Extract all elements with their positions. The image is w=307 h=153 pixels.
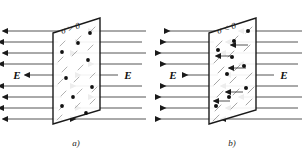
charge-dot	[214, 104, 218, 108]
panel-b-charged-plane	[209, 18, 256, 124]
charge-dot	[242, 64, 246, 68]
charge-dot	[225, 72, 229, 76]
charge-dot	[60, 50, 64, 54]
panel-a: σ > 0 E E a)	[4, 18, 146, 148]
charge-dot	[90, 85, 94, 89]
charge-dot	[216, 48, 220, 52]
panel-a-charged-plane	[53, 18, 100, 124]
panel-a-caption: a)	[72, 138, 80, 148]
charge-dot	[88, 31, 92, 35]
charge-dot	[246, 29, 250, 33]
panel-a-field-label-left: E	[12, 69, 20, 81]
charge-dot	[86, 58, 90, 62]
charge-dot	[60, 104, 64, 108]
panel-b-caption: b)	[228, 138, 236, 148]
panel-b-field-label-right: E	[279, 69, 287, 81]
charge-dot	[232, 39, 236, 43]
charge-dot	[84, 111, 88, 115]
charge-dot	[64, 76, 68, 80]
charge-dot	[71, 95, 75, 99]
panel-b-field-label-left: E	[168, 69, 176, 81]
electric-field-charged-plane-figure: σ > 0 E E a)	[0, 0, 307, 153]
charge-dot	[227, 95, 231, 99]
panel-a-field-label-right: E	[123, 69, 131, 81]
charge-dot	[244, 86, 248, 90]
charge-dot	[76, 41, 80, 45]
figure-canvas: σ > 0 E E a)	[0, 0, 307, 153]
panel-b: σ < 0 E E b)	[155, 18, 302, 148]
